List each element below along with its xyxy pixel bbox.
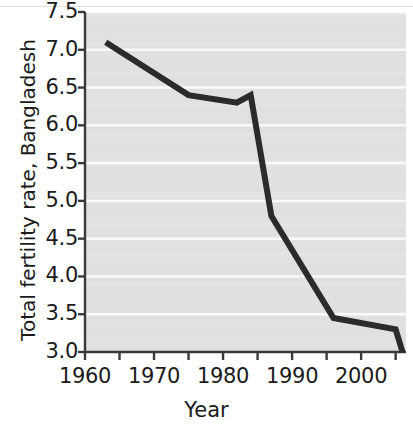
texture-band [85,102,406,107]
texture-band [85,332,406,337]
texture-band [85,202,406,207]
y-axis-title: Total fertility rate, Bangladesh [16,10,40,370]
x-tick-label-wrap: 1980 [183,366,263,387]
texture-band [85,262,406,267]
x-axis-title: Year [0,398,413,422]
texture-band [85,142,406,147]
texture-band [85,132,406,137]
texture-band [85,192,406,197]
texture-band [85,182,406,187]
texture-band [85,252,406,257]
texture-band [85,282,406,287]
x-tick-label: 1990 [252,366,332,387]
texture-band [85,172,406,177]
x-axis-ticks [85,352,396,360]
texture-band [85,72,406,77]
texture-band [85,32,406,37]
texture-band [85,292,406,297]
x-tick-label-wrap: 1970 [114,366,194,387]
texture-band [85,82,406,87]
x-tick-label-wrap: 1960 [45,366,125,387]
texture-band [85,22,406,27]
texture-band [85,212,406,217]
fertility-rate-chart-figure: 3.03.54.04.55.05.56.06.57.07.5 196019701… [0,0,413,427]
texture-band [85,242,406,247]
texture-band [85,112,406,117]
x-tick-label: 1960 [45,366,125,387]
x-tick-label: 1980 [183,366,263,387]
x-tick-label-wrap: 1990 [252,366,332,387]
texture-band [85,302,406,307]
texture-band [85,222,406,227]
texture-band [85,152,406,157]
x-tick-label-wrap: 2000 [321,366,401,387]
texture-band [85,42,406,47]
x-tick-label: 1970 [114,366,194,387]
texture-band [85,232,406,237]
texture-band [85,342,406,347]
x-tick-label: 2000 [321,366,401,387]
